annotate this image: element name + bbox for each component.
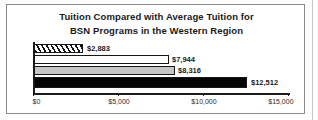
bar-row-3 <box>34 66 175 75</box>
page-edge-rule <box>312 0 313 120</box>
value-axis-line <box>33 93 290 95</box>
x-tick-label-10000: $10,000 <box>191 98 216 105</box>
chart-title-line-1: Tuition Compared with Average Tuition fo… <box>7 10 306 24</box>
bar-row-2 <box>34 55 169 64</box>
bar-value-label-4: $12,512 <box>251 78 278 87</box>
scanned-page-background: Tuition Compared with Average Tuition fo… <box>0 0 318 120</box>
bar-row-1 <box>34 44 83 53</box>
x-tick-label-15000: $15,000 <box>268 98 293 105</box>
x-tick-5000 <box>118 93 119 96</box>
x-tick-10000 <box>203 93 204 96</box>
x-tick-label-0: $0 <box>33 98 41 105</box>
chart-title-line-2: BSN Programs in the Western Region <box>7 24 306 38</box>
x-tick-15000 <box>288 93 289 96</box>
x-tick-label-5000: $5,000 <box>108 98 129 105</box>
bar-value-label-1: $2,883 <box>87 44 110 53</box>
plot-area: $2,883 $7,944 $8,316 $12,512 $0 $5,000 $… <box>34 43 289 93</box>
bar-value-label-2: $7,944 <box>172 55 195 64</box>
x-tick-0 <box>33 93 34 96</box>
bar-value-label-3: $8,316 <box>178 66 201 75</box>
chart-title: Tuition Compared with Average Tuition fo… <box>7 10 306 38</box>
chart-frame: Tuition Compared with Average Tuition fo… <box>6 4 305 114</box>
bar-row-4 <box>34 77 247 88</box>
